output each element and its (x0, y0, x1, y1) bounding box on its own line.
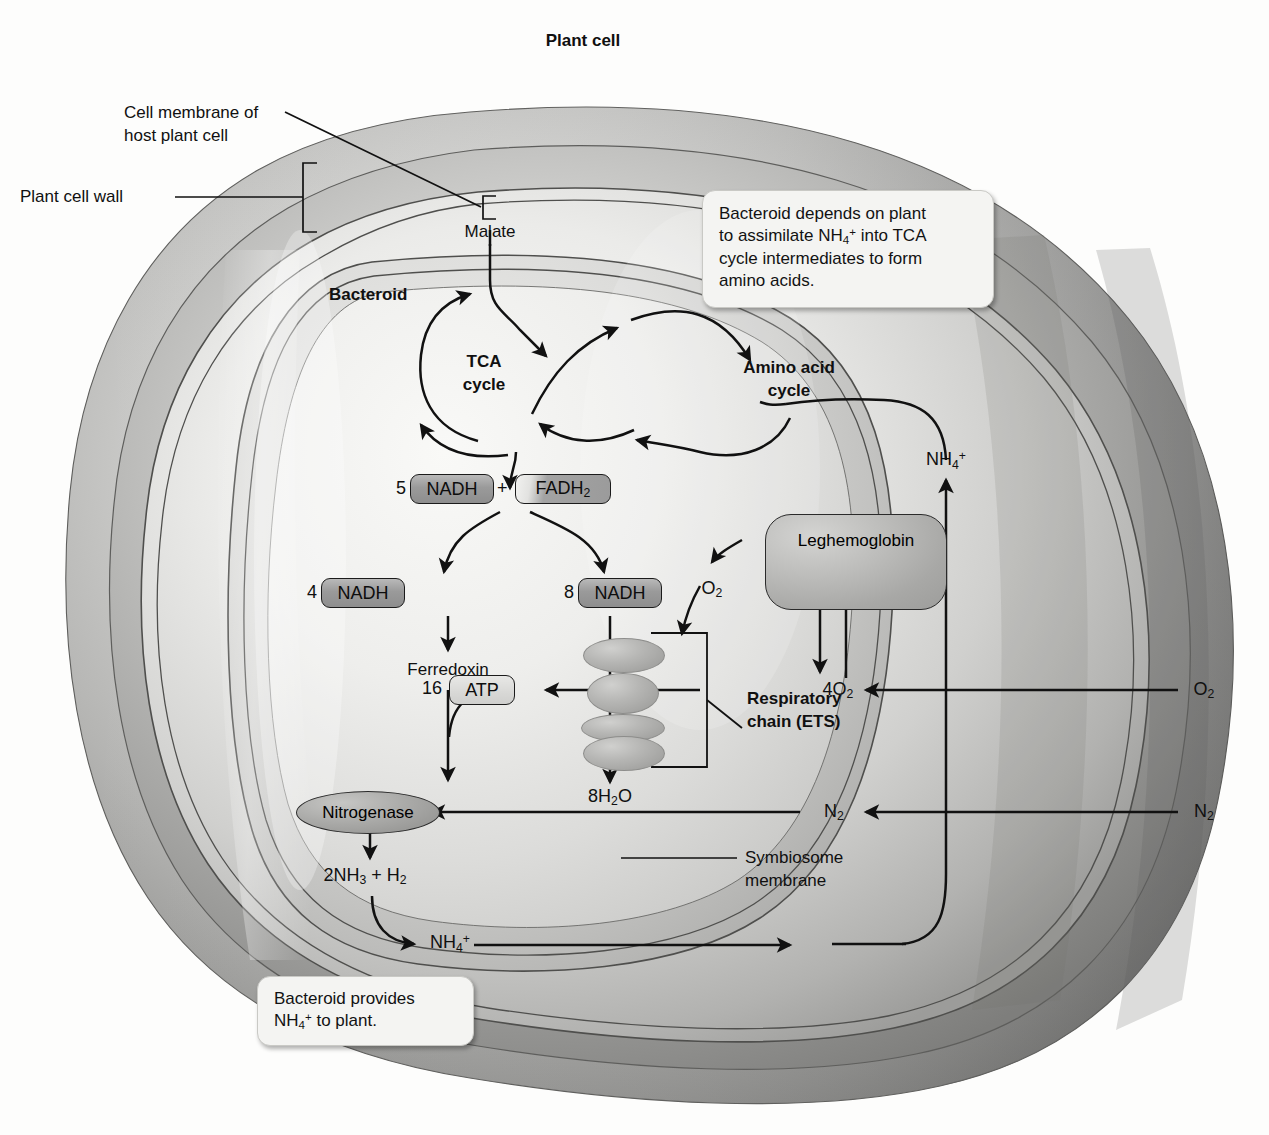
atp-chip: ATP (449, 675, 515, 705)
callout-top-line2: to assimilate NH4+ into TCA (719, 225, 977, 248)
water-label: 8H2O (588, 786, 632, 809)
ets-complex-2 (587, 673, 659, 714)
bacteroid-label: Bacteroid (329, 285, 407, 305)
nadh5-coefficient: 5 (396, 478, 406, 499)
nadh5-chip: NADH (410, 474, 494, 504)
malate-label: Malate (464, 222, 515, 242)
n2-inner-label: N2 (824, 801, 844, 824)
o2-outer-label: O2 (1194, 679, 1215, 702)
plant-cell-wall-label: Plant cell wall (20, 187, 123, 207)
callout-top-line4: amino acids. (719, 270, 977, 292)
atp-chip-label: ATP (465, 680, 499, 701)
fadh2-chip-label: FADH2 (536, 478, 591, 500)
callout-bottom: Bacteroid provides NH4+ to plant. (257, 976, 474, 1046)
ammonia-hydrogen-label: 2NH3 + H2 (323, 865, 406, 888)
nadh4-coefficient: 4 (307, 582, 317, 603)
amino-acid-cycle-label-line1: Amino acid (743, 358, 835, 378)
callout-top-line1: Bacteroid depends on plant (719, 203, 977, 225)
leghemoglobin-shape: Leghemoglobin (765, 514, 947, 610)
callout-bottom-line1: Bacteroid provides (274, 988, 457, 1010)
nadh8-chip: NADH (578, 578, 662, 608)
nitrogenase-label: Nitrogenase (322, 803, 414, 823)
symbiosome-membrane-label-line1: Symbiosome (745, 848, 843, 868)
tca-cycle-label-line1: TCA (467, 352, 502, 372)
nadh4-chip-label: NADH (337, 583, 388, 604)
o2-four-label: 4O2 (823, 679, 854, 702)
ammonium-bottom-label: NH4+ (430, 932, 470, 955)
respiratory-chain-bracket (0, 0, 1269, 1135)
o2-small-label: O2 (702, 578, 723, 601)
atp-coefficient: 16 (422, 678, 442, 699)
ets-complex-4 (583, 736, 665, 771)
n2-outer-label: N2 (1194, 801, 1214, 824)
plus-sign: + (497, 478, 508, 499)
leghemoglobin-label: Leghemoglobin (798, 531, 914, 551)
nadh5-chip-label: NADH (426, 479, 477, 500)
diagram-canvas: Plant cell Cell membrane of host plant c… (0, 0, 1269, 1135)
respiratory-chain-label-line2: chain (ETS) (747, 712, 841, 732)
cell-membrane-label-line1: Cell membrane of (124, 103, 258, 123)
nadh4-chip: NADH (321, 578, 405, 608)
amino-acid-cycle-label-line2: cycle (768, 381, 811, 401)
cell-membrane-label-line2: host plant cell (124, 126, 228, 146)
callout-top-line3: cycle intermediates to form (719, 248, 977, 270)
nadh8-coefficient: 8 (564, 582, 574, 603)
ets-complex-1 (583, 638, 665, 673)
page-title: Plant cell (546, 31, 621, 51)
callout-top: Bacteroid depends on plant to assimilate… (702, 190, 994, 308)
tca-cycle-label-line2: cycle (463, 375, 506, 395)
fadh2-chip: FADH2 (515, 474, 611, 504)
symbiosome-membrane-label-line2: membrane (745, 871, 826, 891)
nitrogenase-shape: Nitrogenase (296, 791, 440, 834)
nadh8-chip-label: NADH (594, 583, 645, 604)
ammonium-right-label: NH4+ (926, 449, 966, 472)
callout-bottom-line2: NH4+ to plant. (274, 1010, 457, 1033)
